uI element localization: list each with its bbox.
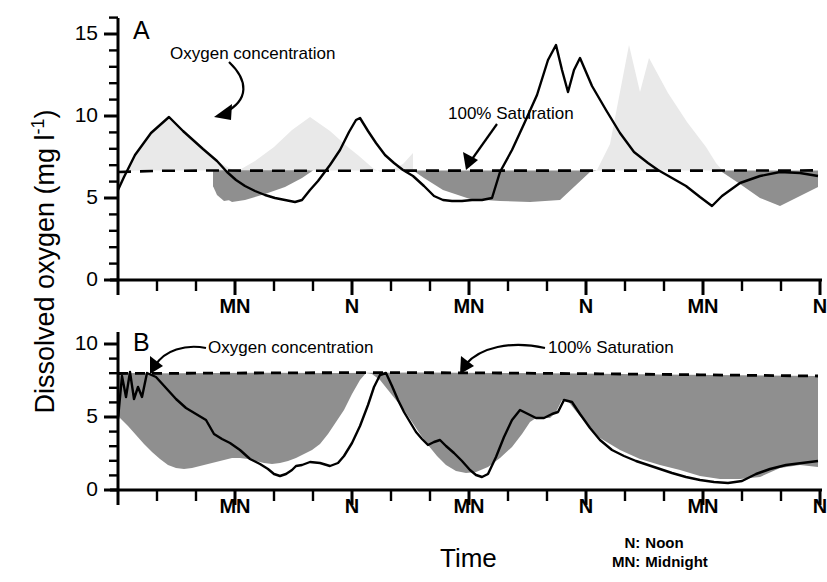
panel-a-saturation-annotation-arrow [470,124,497,162]
panel-a-annotation-saturation: 100% Saturation [448,104,574,124]
panel-a-supersaturation-area-2 [597,45,722,171]
panel-a-x-ticks [118,280,820,295]
panel-a-ytick-10: 10 [54,103,98,127]
panel-b-xtick-label-3: N [556,495,616,518]
panel-b-annotation-saturation: 100% Saturation [548,338,674,358]
panel-a-plot [0,0,827,300]
panel-a-xtick-label-1: N [322,295,382,318]
panel-b-y-major-ticks [104,344,118,490]
panel-a-letter: A [133,16,150,45]
panel-b-undersaturation-area [118,373,818,479]
panel-b-letter: B [133,328,150,357]
legend-note-key-mn: MN: [612,553,645,572]
panel-b-xtick-label-5: N [790,495,827,518]
panel-a-ytick-0: 0 [54,267,98,291]
panel-a-oxygen-annotation-arrowhead [214,104,232,120]
panel-b-ytick-5: 5 [54,404,98,428]
panel-b-plot [0,322,827,522]
panel-b-xtick-label-0: MN [205,495,265,518]
legend-note-row-noon: N: Noon [612,534,708,553]
legend-note-row-midnight: MN: Midnight [612,553,708,572]
panel-a: A 15 10 5 0 Oxygen concentration 100% Sa… [0,0,827,300]
panel-a-xtick-label-0: MN [205,295,265,318]
panel-b-xtick-label-4: MN [673,495,733,518]
panel-a-xtick-label-2: MN [439,295,499,318]
panel-b-annotation-oxygen-concentration: Oxygen concentration [208,338,373,358]
panel-a-oxygen-annotation-arrow [224,62,243,113]
panel-a-undersaturation-area-1b [213,171,313,203]
panel-a-annotation-oxygen-concentration: Oxygen concentration [170,44,335,64]
panel-b: B 10 5 0 Oxygen concentration 100% Satur… [0,322,827,522]
panel-a-xtick-label-4: MN [673,295,733,318]
panel-a-undersaturation-area-2 [413,171,597,203]
panel-a-undersaturation-area-3 [722,171,818,207]
panel-a-xtick-label-3: N [556,295,616,318]
panel-a-ytick-5: 5 [54,185,98,209]
panel-b-xtick-label-2: MN [439,495,499,518]
panel-b-ytick-0: 0 [54,477,98,501]
panel-a-ytick-15: 15 [54,21,98,45]
x-axis-title: Time [440,543,497,574]
panel-a-y-major-ticks [104,34,118,280]
panel-b-oxygen-annotation-arrow [155,347,206,366]
legend-note-value-midnight: Midnight [645,553,707,572]
panel-a-xtick-label-5: N [790,295,827,318]
legend-note: N: Noon MN: Midnight [612,534,708,572]
legend-note-key-n: N: [612,534,645,553]
figure-dissolved-oxygen: Dissolved oxygen (mg l-1) [0,0,827,582]
legend-note-value-noon: Noon [645,534,707,553]
panel-b-ytick-10: 10 [54,331,98,355]
panel-b-xtick-label-1: N [322,495,382,518]
panel-b-saturation-annotation-arrow [466,345,545,364]
